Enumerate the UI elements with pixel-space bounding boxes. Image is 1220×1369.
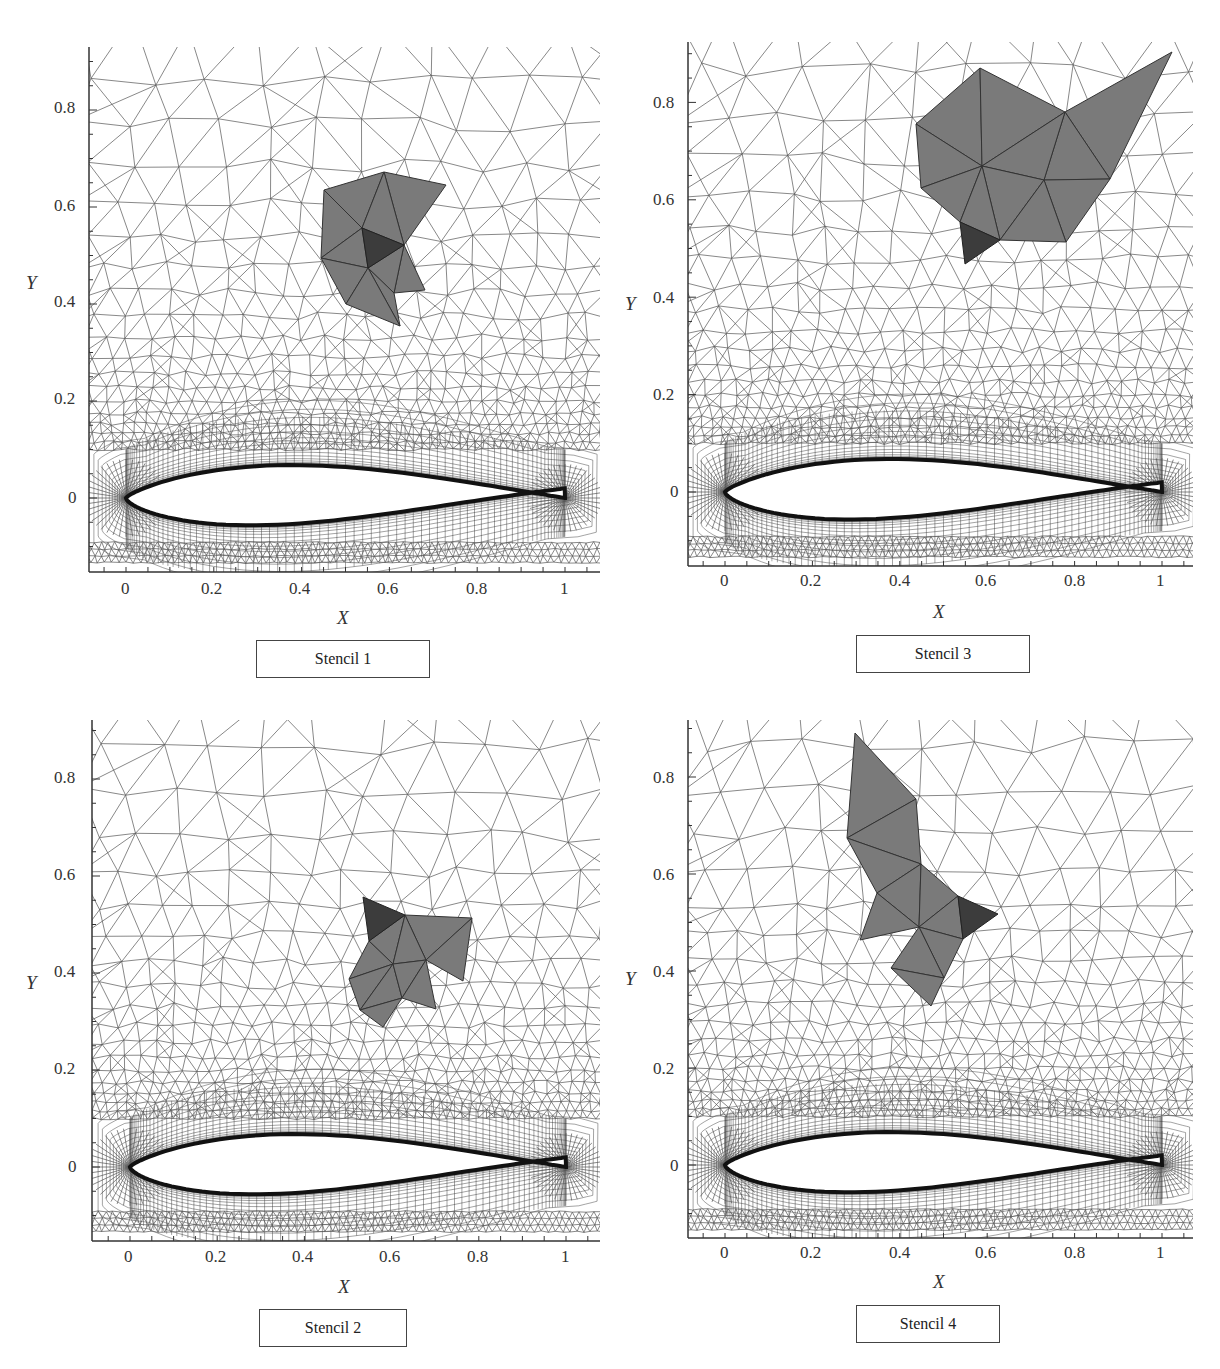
y-tick-0.2: 0.2 [54,1059,75,1079]
caption-stencil-1: Stencil 1 [256,640,430,678]
x-axis-title: X [338,1276,350,1298]
x-tick-0.6: 0.6 [379,1247,400,1267]
y-tick-0.8: 0.8 [653,768,674,788]
y-tick-0.2: 0.2 [653,385,674,405]
x-tick-0.6: 0.6 [377,579,398,599]
x-tick-0.2: 0.2 [205,1247,226,1267]
y-tick-0.6: 0.6 [653,190,674,210]
y-tick-0: 0 [670,1156,679,1176]
caption-stencil-4: Stencil 4 [856,1305,1000,1343]
caption-stencil-3: Stencil 3 [856,635,1030,673]
caption-stencil-2: Stencil 2 [259,1309,407,1347]
y-tick-0.6: 0.6 [54,196,75,216]
y-axis-title: Y [625,293,636,315]
y-tick-0.8: 0.8 [653,93,674,113]
x-tick-0: 0 [121,579,130,599]
y-axis-title: Y [625,968,636,990]
x-tick-0: 0 [124,1247,133,1267]
y-tick-0.4: 0.4 [54,962,75,982]
panel-stencil-2: 0.8 0.6 0.4 0.2 0 Y 0 0.2 0.4 0.6 0.8 1 … [0,675,610,1369]
y-tick-0.2: 0.2 [653,1059,674,1079]
panel-stencil-3: 0.8 0.6 0.4 0.2 0 Y 0 0.2 0.4 0.6 0.8 1 … [610,0,1220,690]
y-tick-0.6: 0.6 [653,865,674,885]
y-tick-0.8: 0.8 [54,98,75,118]
x-axis-title: X [933,1271,945,1293]
x-axis-title: X [337,607,349,629]
x-axis-title: X [933,601,945,623]
y-tick-0.4: 0.4 [653,962,674,982]
x-tick-0: 0 [720,571,729,591]
x-tick-0.8: 0.8 [466,579,487,599]
y-axis-title: Y [26,272,37,294]
x-tick-1: 1 [561,1247,570,1267]
x-tick-0: 0 [720,1243,729,1263]
x-tick-0.4: 0.4 [889,1243,910,1263]
y-tick-0.8: 0.8 [54,768,75,788]
y-tick-0.4: 0.4 [653,288,674,308]
x-tick-0.2: 0.2 [201,579,222,599]
x-tick-1: 1 [1156,571,1165,591]
y-tick-0.6: 0.6 [54,865,75,885]
x-tick-0.8: 0.8 [1064,571,1085,591]
y-tick-0: 0 [670,482,679,502]
mesh-plot [610,675,1220,1369]
x-tick-0.6: 0.6 [975,571,996,591]
mesh-plot [610,0,1220,690]
y-tick-0.2: 0.2 [54,389,75,409]
x-tick-0.4: 0.4 [292,1247,313,1267]
panel-stencil-1: 0.8 0.6 0.4 0.2 0 Y 0 0.2 0.4 0.6 0.8 1 … [0,0,610,690]
x-tick-0.8: 0.8 [467,1247,488,1267]
x-tick-0.6: 0.6 [975,1243,996,1263]
x-tick-1: 1 [560,579,569,599]
y-axis-title: Y [26,972,37,994]
x-tick-0.2: 0.2 [800,1243,821,1263]
x-tick-0.2: 0.2 [800,571,821,591]
x-tick-0.8: 0.8 [1064,1243,1085,1263]
x-tick-0.4: 0.4 [889,571,910,591]
y-tick-0.4: 0.4 [54,292,75,312]
x-tick-0.4: 0.4 [289,579,310,599]
y-tick-0: 0 [68,1157,77,1177]
panel-stencil-4: 0.8 0.6 0.4 0.2 0 Y 0 0.2 0.4 0.6 0.8 1 … [610,675,1220,1369]
x-tick-1: 1 [1156,1243,1165,1263]
y-tick-0: 0 [68,488,77,508]
